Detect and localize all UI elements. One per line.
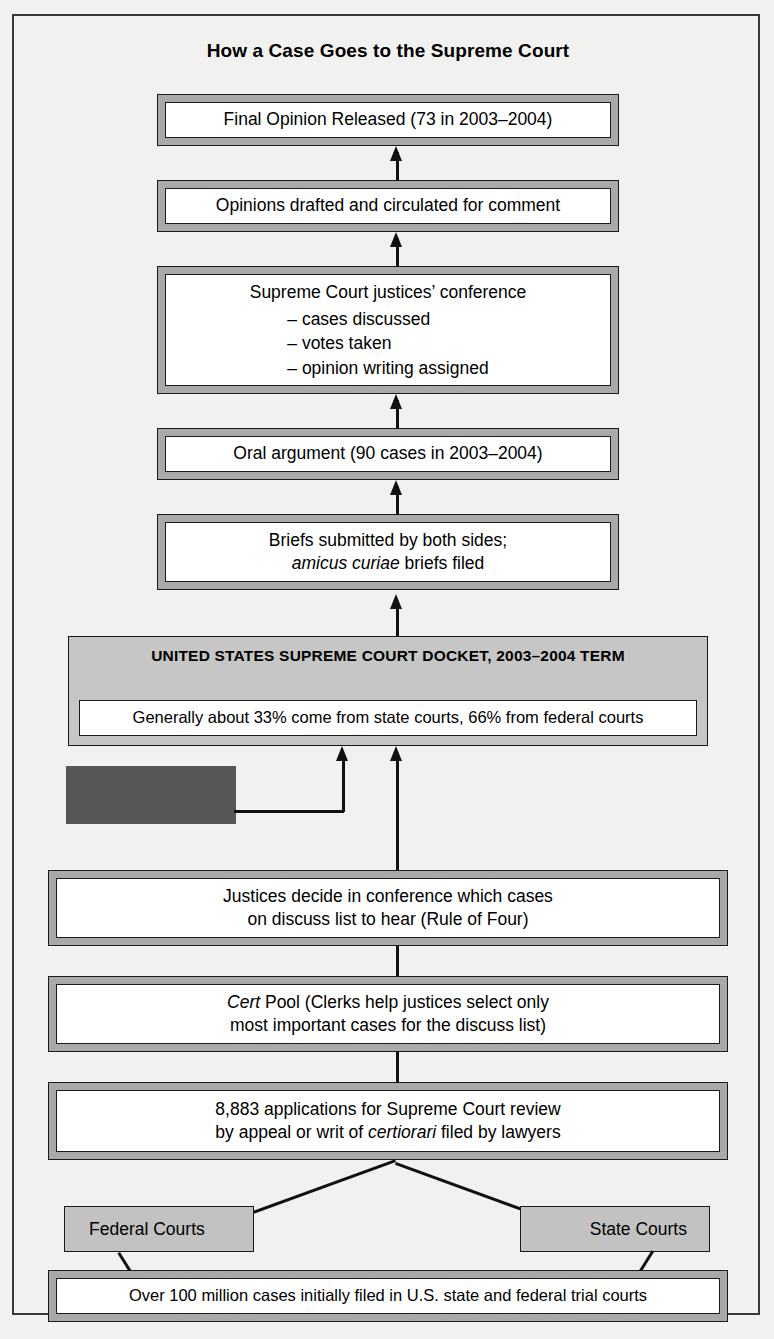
justices-decide-line-2: on discuss list to hear (Rule of Four) [223, 908, 553, 931]
redacted-block [66, 766, 236, 824]
state-courts-box: State Courts [520, 1206, 710, 1252]
applications-line-2-head: by appeal or writ of [215, 1122, 368, 1142]
step-trial-courts-cases-label: Over 100 million cases initially filed i… [56, 1278, 720, 1314]
conference-heading: Supreme Court justices’ conference [166, 280, 610, 305]
connector-applications-to-certpool [396, 1052, 399, 1082]
cert-pool-line-1-tail: Pool (Clerks help justices select only [260, 992, 549, 1012]
docket-panel: UNITED STATES SUPREME COURT DOCKET, 2003… [68, 636, 708, 746]
justices-decide-line-1: Justices decide in conference which case… [223, 885, 553, 908]
step-final-opinion-label: Final Opinion Released (73 in 2003–2004) [165, 102, 611, 138]
briefs-line-2-tail: briefs filed [400, 553, 485, 573]
cert-pool-italic-term: Cert [227, 992, 260, 1012]
step-applications-panel: 8,883 applications for Supreme Court rev… [56, 1090, 720, 1152]
step-opinions-drafted-label: Opinions drafted and circulated for comm… [165, 188, 611, 224]
applications-line-2-tail: filed by lawyers [436, 1122, 561, 1142]
arrow-head-conference-to-opinions [390, 232, 402, 247]
step-oral-argument: Oral argument (90 cases in 2003–2004) [157, 428, 619, 480]
arrow-head-briefs-to-oral [390, 480, 402, 495]
conference-list-item: – opinion writing assigned [287, 356, 488, 381]
applications-line-1: 8,883 applications for Supreme Court rev… [215, 1098, 560, 1121]
step-briefs: Briefs submitted by both sides; amicus c… [157, 514, 619, 590]
diagram-frame: How a Case Goes to the Supreme Court Fin… [12, 14, 760, 1315]
conference-list: – cases discussed – votes taken – opinio… [287, 307, 488, 381]
step-justices-decide: Justices decide in conference which case… [48, 870, 728, 946]
elbow-horizontal-redacted [234, 810, 344, 813]
step-justices-conference-panel: Supreme Court justices’ conference – cas… [165, 274, 611, 386]
step-justices-decide-panel: Justices decide in conference which case… [56, 878, 720, 938]
elbow-vertical-redacted [342, 760, 345, 812]
step-briefs-panel: Briefs submitted by both sides; amicus c… [165, 522, 611, 582]
applications-italic-term: certiorari [368, 1122, 436, 1142]
step-justices-conference: Supreme Court justices’ conference – cas… [157, 266, 619, 394]
federal-courts-label: Federal Courts [89, 1219, 205, 1240]
federal-courts-box: Federal Courts [64, 1206, 254, 1252]
page-title: How a Case Goes to the Supreme Court [14, 40, 762, 62]
docket-heading-line-1: UNITED STATES SUPREME COURT DOCKET, [151, 647, 492, 664]
arrow-line-decide-to-docket [396, 760, 399, 870]
step-cert-pool-panel: Cert Pool (Clerks help justices select o… [56, 984, 720, 1044]
arrow-head-opinions-to-final [390, 146, 402, 161]
docket-heading-line-2: 2003–2004 TERM [496, 647, 625, 664]
step-cert-pool: Cert Pool (Clerks help justices select o… [48, 976, 728, 1052]
conference-list-item: – votes taken [287, 331, 488, 356]
step-oral-argument-label: Oral argument (90 cases in 2003–2004) [165, 436, 611, 472]
step-final-opinion: Final Opinion Released (73 in 2003–2004) [157, 94, 619, 146]
cert-pool-line-1: Cert Pool (Clerks help justices select o… [227, 991, 549, 1014]
arrow-head-redacted-to-docket [336, 746, 348, 761]
conference-list-item: – cases discussed [287, 307, 488, 332]
arrow-head-docket-to-briefs [390, 594, 402, 609]
state-courts-label: State Courts [590, 1219, 687, 1240]
docket-heading: UNITED STATES SUPREME COURT DOCKET, 2003… [69, 637, 707, 672]
briefs-line-2: amicus curiae briefs filed [269, 552, 507, 575]
step-trial-courts-cases: Over 100 million cases initially filed i… [48, 1270, 728, 1322]
applications-line-2: by appeal or writ of certiorari filed by… [215, 1121, 560, 1144]
step-applications: 8,883 applications for Supreme Court rev… [48, 1082, 728, 1160]
cert-pool-line-2: most important cases for the discuss lis… [227, 1014, 549, 1037]
connector-certpool-to-decide [396, 946, 399, 976]
docket-statistic-strip: Generally about 33% come from state cour… [79, 700, 697, 736]
briefs-line-1: Briefs submitted by both sides; [269, 529, 507, 552]
arrow-head-oral-to-conference [390, 394, 402, 409]
arrow-head-decide-to-docket [390, 746, 402, 761]
step-opinions-drafted: Opinions drafted and circulated for comm… [157, 180, 619, 232]
fork-line-to-federal-courts [245, 1159, 396, 1217]
briefs-italic-term: amicus curiae [292, 553, 400, 573]
